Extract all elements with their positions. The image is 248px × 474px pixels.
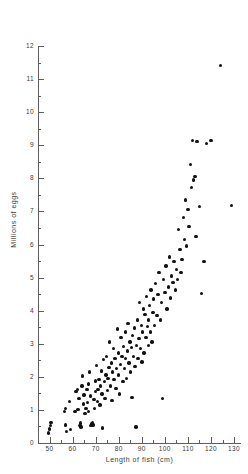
data-point <box>79 425 82 428</box>
data-point <box>230 204 233 207</box>
data-point <box>102 358 105 361</box>
y-tick-major <box>38 410 44 411</box>
data-point <box>49 421 52 424</box>
plot-area: 0123456789101112 5060708090100110120130 <box>0 0 248 474</box>
data-point <box>128 340 131 343</box>
data-point <box>110 399 113 402</box>
data-point <box>82 402 85 405</box>
data-point <box>136 318 139 321</box>
data-point <box>198 205 201 208</box>
data-point <box>95 364 98 367</box>
data-point <box>116 327 119 330</box>
data-point <box>145 295 148 298</box>
data-point <box>169 296 172 299</box>
y-tick-minor <box>38 129 41 130</box>
x-tick-label: 80 <box>107 445 131 452</box>
data-point <box>126 322 129 325</box>
y-tick-minor <box>38 195 41 196</box>
x-tick-label: 50 <box>38 445 62 452</box>
y-tick-label: 7 <box>14 207 34 214</box>
data-point <box>69 428 72 431</box>
data-point <box>100 369 103 372</box>
data-point <box>178 248 181 251</box>
data-point <box>97 378 100 381</box>
data-point <box>147 344 150 347</box>
data-point <box>140 360 143 363</box>
data-point <box>147 318 150 321</box>
y-tick-label: 4 <box>14 307 34 314</box>
y-tick-label: 6 <box>14 241 34 248</box>
y-tick-label: 1 <box>14 406 34 413</box>
y-tick-minor <box>38 393 41 394</box>
y-tick-label: 5 <box>14 274 34 281</box>
data-point <box>81 374 84 377</box>
data-point <box>138 301 141 304</box>
data-point <box>177 228 180 231</box>
x-tick-major <box>188 437 189 443</box>
data-point <box>80 384 83 387</box>
data-point <box>202 260 205 263</box>
data-point <box>123 367 126 370</box>
data-point <box>64 423 67 426</box>
data-point <box>159 318 162 321</box>
data-point <box>99 384 102 387</box>
x-tick-minor <box>176 440 177 443</box>
data-point <box>77 397 80 400</box>
data-point <box>168 255 171 258</box>
y-tick-label: 2 <box>14 373 34 380</box>
data-point <box>142 307 145 310</box>
data-point <box>121 380 124 383</box>
data-point <box>164 264 167 267</box>
x-tick-major <box>50 437 51 443</box>
data-point <box>167 285 170 288</box>
data-point <box>170 274 173 277</box>
data-point <box>76 388 79 391</box>
y-tick-minor <box>38 360 41 361</box>
x-tick-minor <box>199 440 200 443</box>
x-tick-major <box>119 437 120 443</box>
data-point <box>129 370 132 373</box>
data-point <box>140 324 143 327</box>
data-point <box>162 278 165 281</box>
y-tick-label: 8 <box>14 174 34 181</box>
data-point <box>63 410 66 413</box>
data-point <box>176 278 179 281</box>
data-point <box>131 334 134 337</box>
y-tick-label: 11 <box>14 75 34 82</box>
y-tick-major <box>38 46 44 47</box>
data-point <box>193 175 196 178</box>
y-tick-major <box>38 112 44 113</box>
data-point <box>85 388 88 391</box>
y-tick-label: 9 <box>14 141 34 148</box>
data-point <box>132 355 135 358</box>
data-point <box>115 367 118 370</box>
data-point <box>113 357 116 360</box>
data-point <box>205 142 208 145</box>
x-tick-minor <box>153 440 154 443</box>
y-tick-label: 12 <box>14 42 34 49</box>
data-point <box>134 425 137 428</box>
data-point <box>96 388 99 391</box>
data-point <box>163 291 166 294</box>
data-point <box>110 361 113 364</box>
data-point <box>151 311 154 314</box>
data-point <box>87 382 90 385</box>
data-point <box>86 401 89 404</box>
x-tick-label: 130 <box>222 445 246 452</box>
data-point <box>105 355 108 358</box>
data-point <box>161 397 164 400</box>
data-point <box>127 361 130 364</box>
x-axis-line <box>38 443 241 444</box>
y-tick-minor <box>38 228 41 229</box>
data-point <box>124 357 127 360</box>
data-point <box>82 393 85 396</box>
data-point <box>103 380 106 383</box>
data-point <box>114 387 117 390</box>
data-point <box>209 139 212 142</box>
data-point <box>107 366 110 369</box>
y-tick-minor <box>38 261 41 262</box>
data-point <box>187 225 190 228</box>
data-point <box>91 423 94 426</box>
data-point <box>139 347 142 350</box>
data-point <box>108 340 111 343</box>
